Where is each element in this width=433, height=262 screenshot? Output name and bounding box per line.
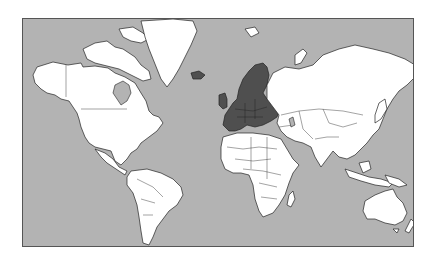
- region-svalbard: [245, 27, 259, 37]
- region-novaya-zemlya: [295, 49, 307, 65]
- region-australia: [363, 189, 407, 225]
- map-canvas: [23, 19, 414, 247]
- region-uk: [219, 93, 227, 109]
- region-madagascar: [287, 191, 295, 207]
- region-indonesia: [345, 169, 393, 187]
- region-iceland: [191, 71, 205, 79]
- region-borneo: [359, 161, 371, 173]
- region-asia: [267, 45, 414, 167]
- world-map: [22, 18, 414, 247]
- region-tasmania: [393, 229, 399, 233]
- region-new-zealand: [405, 219, 414, 233]
- region-south-america: [127, 169, 183, 245]
